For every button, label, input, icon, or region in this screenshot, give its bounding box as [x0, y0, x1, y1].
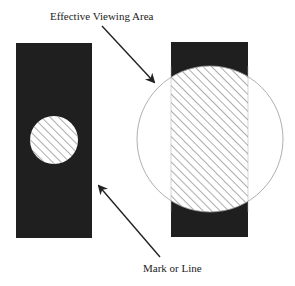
viewing-area-diagram: Effective Viewing Area Mark or Line [0, 0, 295, 286]
label-mark-or-line: Mark or Line [143, 262, 202, 274]
small-hatched-circle [30, 116, 78, 164]
left-panel [16, 43, 92, 238]
arrow-mark-or-line [99, 186, 160, 257]
label-effective-viewing-area: Effective Viewing Area [50, 10, 154, 22]
arrow-effective-viewing-area [102, 26, 154, 82]
right-panel [137, 42, 283, 237]
